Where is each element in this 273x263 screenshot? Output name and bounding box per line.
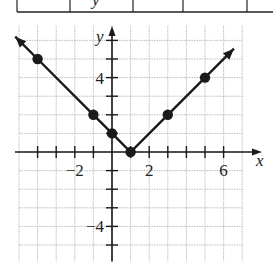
data-point bbox=[32, 54, 42, 64]
y-tick-label: 4 bbox=[96, 69, 105, 88]
y-axis-label: y bbox=[94, 27, 104, 46]
x-tick-label: 2 bbox=[145, 161, 154, 180]
y-tick-label: −4 bbox=[86, 217, 105, 236]
data-point bbox=[125, 147, 135, 157]
x-tick-label: −2 bbox=[66, 161, 84, 180]
data-point bbox=[200, 72, 210, 82]
data-point bbox=[107, 128, 117, 138]
y-axis-arrow-icon bbox=[109, 26, 116, 36]
data-point bbox=[163, 110, 173, 120]
data-point bbox=[88, 110, 98, 120]
x-tick-label: 6 bbox=[219, 161, 228, 180]
function-line bbox=[15, 37, 234, 152]
x-axis-label: x bbox=[255, 151, 264, 170]
function-graph: −2264−4xy bbox=[0, 0, 273, 263]
